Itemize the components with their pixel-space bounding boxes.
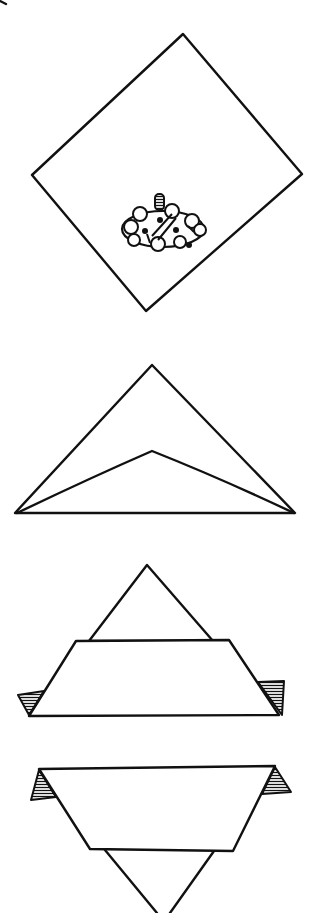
paper-square [32,34,302,311]
corner-mark [0,1,6,4]
outer-triangle [15,365,295,513]
step-4-turned-over [31,766,291,913]
band-trapezoid [29,640,279,716]
step-3-folded-band [18,565,284,716]
step-1-diamond [32,34,302,311]
filling-icon [122,194,206,251]
step-2-triangle [15,365,295,513]
inner-fold-edge [17,451,294,513]
folding-diagram [0,0,324,913]
top-triangle [89,565,213,641]
band-trapezoid [39,766,275,851]
bottom-triangle [105,850,214,913]
